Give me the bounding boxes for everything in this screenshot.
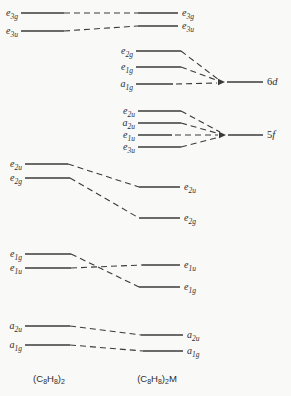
energy-level-label-a1g-complex: a1g (187, 345, 200, 357)
orbital-subscript: 1g (15, 344, 23, 353)
energy-level-label-a2u-ligand: a2u (10, 320, 23, 332)
column-caption-ligand-column: (C8H8)2 (33, 372, 65, 385)
energy-level-label-e3g-ligand: e3g (6, 7, 18, 19)
formula-subscript: 2 (61, 378, 65, 385)
formula-text: H (47, 373, 54, 384)
correlation-dashed-line-4 (176, 83, 217, 84)
formula-text: (C (33, 373, 43, 384)
formula-text: (C (137, 373, 147, 384)
column-caption-complex-column: (C8H8)2M (137, 372, 177, 385)
orbital-subscript: 2u (192, 334, 200, 343)
energy-level-label-e2g-metal: e2g (121, 45, 133, 57)
energy-level-label-e3u-metal: e3u (123, 141, 135, 153)
energy-level-label-e2u-complex: e2u (184, 181, 196, 193)
energy-level-label-e1u-complex: e1u (184, 259, 196, 271)
correlation-dashed-line-13 (70, 326, 141, 335)
energy-level-label-e2u-metal: e2u (123, 105, 135, 117)
arrowhead-icon-6d-convergence (218, 79, 225, 85)
orbital-subscript: 1g (126, 66, 134, 75)
orbital-subscript: 2g (15, 177, 23, 186)
diagram-canvas (0, 0, 291, 396)
formula-text: H (151, 373, 158, 384)
formula-text: M (169, 373, 177, 384)
orbital-subscript: 1g (126, 83, 134, 92)
correlation-dashed-line-6 (181, 123, 220, 134)
energy-level-label-e1g-metal: e1g (121, 61, 133, 73)
energy-level-label-a1g-ligand: a1g (10, 339, 23, 351)
energy-level-label-a1g-metal: a1g (121, 78, 134, 90)
energy-level-label-a2u-complex: a2u (187, 329, 200, 341)
orbital-subscript: 1g (15, 253, 23, 262)
correlation-dashed-line-12 (71, 265, 142, 268)
atomic-orbital-label-5f: 5f (267, 129, 275, 141)
orbital-subscript: 3u (11, 30, 19, 39)
orbital-subscript: 3u (186, 25, 194, 34)
energy-level-label-e2g-ligand: e2g (10, 172, 22, 184)
orbital-letter: d (272, 76, 277, 87)
energy-level-label-e1g-complex: e1g (184, 281, 196, 293)
energy-level-label-e2g-complex: e2g (184, 212, 196, 224)
energy-level-label-e3u-complex: e3u (182, 20, 194, 32)
energy-level-label-e2u-ligand: e2u (10, 158, 22, 170)
orbital-subscript: 2u (188, 186, 196, 195)
orbital-subscript: 1g (192, 350, 200, 359)
correlation-dashed-line-2 (181, 51, 219, 80)
orbital-subscript: 1g (188, 286, 196, 295)
orbital-subscript: 2u (15, 325, 23, 334)
correlation-dashed-line-3 (181, 67, 219, 81)
arrowhead-icon-5f-convergence (219, 132, 226, 138)
orbital-subscript: 3g (11, 12, 19, 21)
orbital-subscript: 2g (126, 50, 134, 59)
correlation-dashed-line-11 (71, 254, 139, 287)
energy-level-label-a2u-metal: a2u (123, 117, 136, 129)
orbital-subscript: 1u (15, 267, 23, 276)
correlation-dashed-line-1 (64, 26, 138, 31)
orbital-subscript: 3u (128, 146, 136, 155)
correlation-dashed-line-14 (70, 345, 143, 351)
orbital-letter: f (272, 129, 275, 140)
orbital-subscript: 1u (188, 264, 196, 273)
mo-correlation-diagram: e3ge3ue3ge3ue2ge1ga1ge2ua2ue1ue3ue2ue2ge… (0, 0, 291, 396)
orbital-subscript: 2u (15, 163, 23, 172)
orbital-subscript: 2g (188, 217, 196, 226)
energy-level-label-e1g-ligand: e1g (10, 248, 22, 260)
correlation-dashed-line-8 (181, 137, 220, 147)
energy-level-label-e1u-metal: e1u (123, 129, 135, 141)
atomic-orbital-label-6d: 6d (267, 76, 278, 88)
energy-level-label-e1u-ligand: e1u (10, 262, 22, 274)
energy-level-label-e3u-ligand: e3u (6, 25, 18, 37)
energy-level-label-e3g-complex: e3g (182, 7, 194, 19)
